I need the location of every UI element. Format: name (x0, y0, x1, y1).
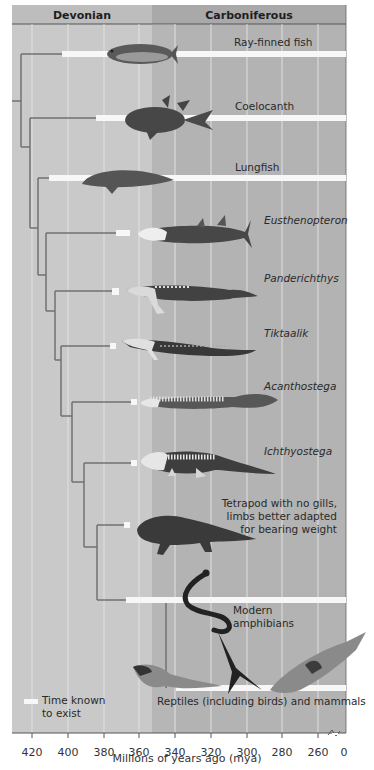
taxon-label-eusthenopteron: Eusthenopteron (264, 214, 348, 226)
legend-label-line-2: to exist (42, 707, 105, 720)
bar-ray-finned-fish (62, 51, 346, 57)
amphibians-label-line-1: Modern (233, 604, 294, 617)
taxon-label-panderichthys: Panderichthys (264, 272, 339, 284)
bar-panderichthys (112, 288, 119, 295)
bar-modern-amphibians (126, 597, 346, 603)
bar-tiktaalik (110, 343, 116, 349)
period-header-devonian: Devonian (12, 7, 152, 25)
taxon-label-tiktaalik: Tiktaalik (264, 327, 308, 339)
taxon-label-coelocanth: Coelocanth (235, 100, 294, 112)
legend: Time known to exist (42, 694, 105, 720)
tetrapod-label-line-1: Tetrapod with no gills, (222, 497, 337, 510)
taxon-label-modern-amphibians: Modern amphibians (233, 604, 294, 630)
taxon-label-ichthyostega: Ichthyostega (264, 445, 332, 457)
tetrapod-label-line-2: limbs better adapted (222, 510, 337, 523)
taxon-label-acanthostega: Acanthostega (264, 380, 336, 392)
legend-label-line-1: Time known (42, 694, 105, 707)
bar-acanthostega (131, 399, 137, 405)
legend-swatch (24, 699, 38, 704)
bar-eusthenopteron (116, 230, 130, 236)
x-axis-ticks (32, 733, 318, 738)
period-header-carboniferous: Carboniferous (152, 7, 346, 25)
taxon-label-tetrapod: Tetrapod with no gills, limbs better ada… (222, 497, 337, 536)
bar-ichthyostega (131, 460, 137, 466)
taxon-label-lungfish: Lungfish (235, 161, 279, 173)
tetrapod-label-line-3: for bearing weight (222, 523, 337, 536)
bar-tetrapod (124, 522, 130, 528)
x-axis-title: Millions of years ago (mya) (0, 752, 374, 765)
taxon-label-ray-finned-fish: Ray-finned fish (234, 36, 312, 48)
taxon-label-reptiles-mammals: Reptiles (including birds) and mammals (157, 695, 366, 707)
amphibians-label-line-2: amphibians (233, 617, 294, 630)
